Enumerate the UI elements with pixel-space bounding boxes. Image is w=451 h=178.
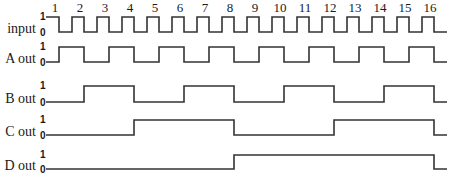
- clock-number: 13: [349, 0, 362, 15]
- input-label: input: [7, 21, 36, 36]
- clock-number: 2: [77, 0, 84, 15]
- timing-diagram: 12345678910111213141516 input10A out10B …: [0, 0, 451, 178]
- clock-number: 16: [424, 0, 438, 15]
- level-high-label: 1: [40, 11, 46, 22]
- clock-number: 5: [152, 0, 159, 15]
- level-low-label: 0: [40, 57, 46, 68]
- level-high-label: 1: [40, 41, 46, 52]
- level-low-label: 0: [40, 97, 46, 108]
- clock-number: 8: [227, 0, 234, 15]
- d-out-waveform: [46, 155, 447, 169]
- clock-number: 12: [324, 0, 337, 15]
- level-high-label: 1: [40, 80, 46, 91]
- level-low-label: 0: [40, 164, 46, 175]
- level-low-label: 0: [40, 27, 46, 38]
- level-low-label: 0: [40, 130, 46, 141]
- clock-number: 3: [102, 0, 109, 15]
- clock-number: 14: [374, 0, 388, 15]
- waveforms: [46, 17, 447, 169]
- clock-number: 6: [177, 0, 184, 15]
- b-out-label: B out: [5, 91, 36, 106]
- clock-number: 1: [52, 0, 59, 15]
- a-out-waveform: [46, 47, 447, 62]
- clock-pulse-numbers: 12345678910111213141516: [52, 0, 437, 15]
- level-high-label: 1: [40, 149, 46, 160]
- clock-number: 9: [252, 0, 259, 15]
- clock-number: 11: [299, 0, 312, 15]
- d-out-label: D out: [5, 158, 37, 173]
- clock-number: 10: [274, 0, 287, 15]
- input-waveform: [46, 17, 447, 32]
- c-out-waveform: [46, 120, 447, 135]
- signal-labels: input10A out10B out10C out10D out10: [5, 11, 47, 175]
- c-out-label: C out: [5, 124, 36, 139]
- level-high-label: 1: [40, 114, 46, 125]
- clock-number: 4: [127, 0, 134, 15]
- clock-number: 7: [202, 0, 209, 15]
- b-out-waveform: [46, 86, 447, 102]
- a-out-label: A out: [5, 51, 36, 66]
- clock-number: 15: [399, 0, 412, 15]
